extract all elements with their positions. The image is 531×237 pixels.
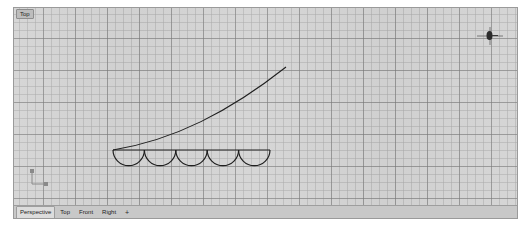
viewport-tab-bar[interactable]: Perspective Top Front Right + xyxy=(14,205,517,218)
navigation-gizmo[interactable] xyxy=(475,25,505,47)
tab-top[interactable]: Top xyxy=(56,207,74,218)
tab-right[interactable]: Right xyxy=(98,207,120,218)
app-root: Top Perspective Top Front Right + xyxy=(0,0,531,237)
tab-perspective[interactable]: Perspective xyxy=(16,206,55,219)
add-viewport-button[interactable]: + xyxy=(121,209,133,216)
viewport-grid[interactable] xyxy=(14,8,517,205)
tab-front[interactable]: Front xyxy=(75,207,97,218)
viewport-title-label[interactable]: Top xyxy=(16,9,34,19)
viewport[interactable]: Top Perspective Top Front Right + xyxy=(13,7,518,219)
origin-axis-icon xyxy=(26,166,58,190)
